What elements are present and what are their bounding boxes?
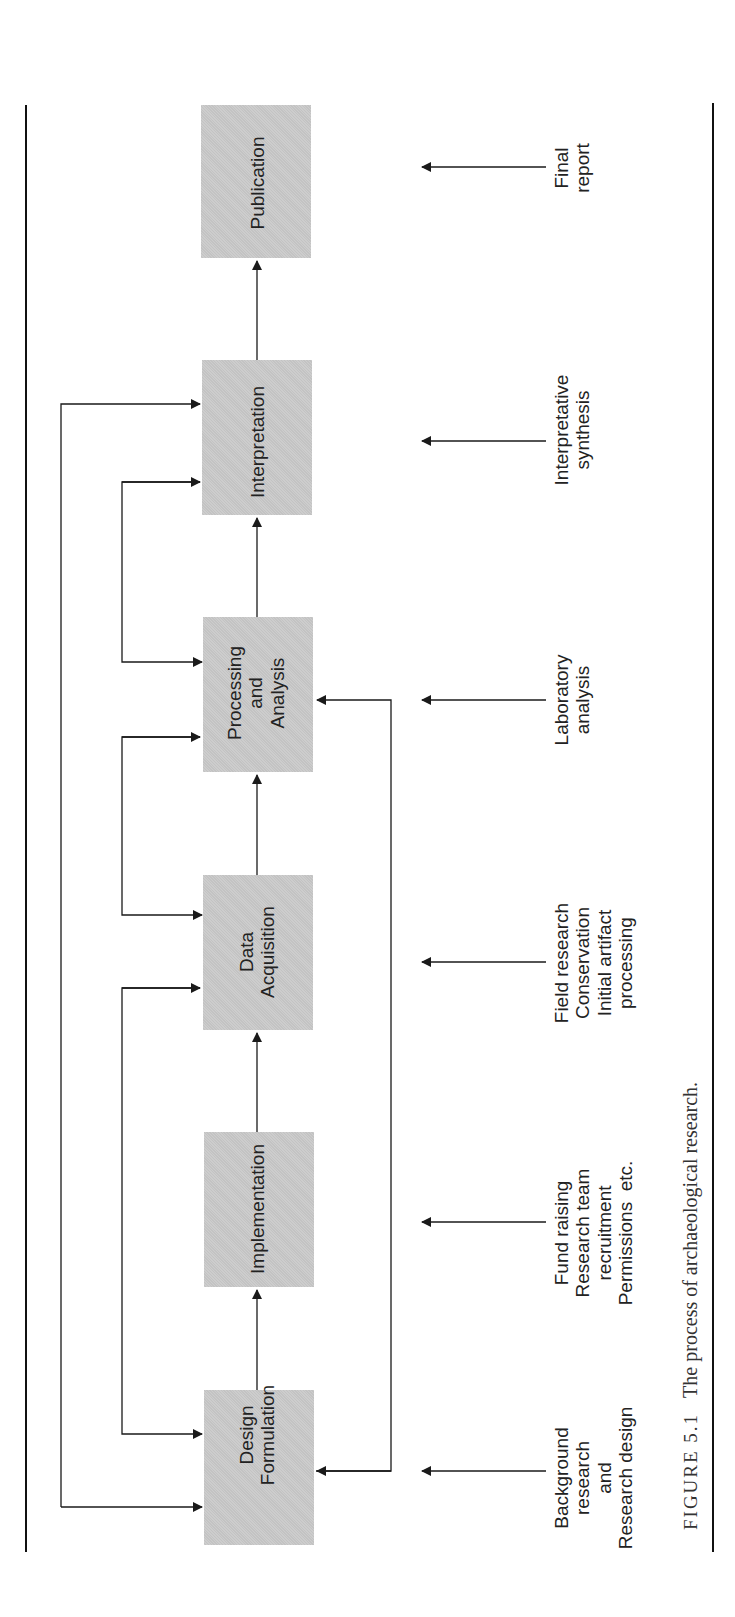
note-design: Background research and Research design	[551, 1378, 637, 1578]
figure-canvas: Design Formulation Implementation Data A…	[0, 0, 735, 1617]
note-implementation: Fund raising Research team recruitment P…	[551, 1138, 637, 1328]
stage-label-processing: Processing and Analysis	[224, 623, 288, 763]
note-data: Field research Conservation Initial arti…	[551, 868, 637, 1058]
figure-number: FIGURE 5.1	[680, 1413, 701, 1530]
figure-caption: FIGURE 5.1 The process of archaeological…	[657, 990, 724, 1550]
stage-label-data: Data Acquisition	[236, 887, 279, 1017]
note-processing: Laboratory analysis	[551, 630, 594, 770]
stage-label-implementation: Implementation	[247, 1135, 268, 1283]
stage-label-interpretation: Interpretation	[247, 368, 268, 516]
diagram-connectors	[0, 0, 735, 1617]
note-publication: Final report	[551, 123, 594, 213]
figure-caption-text: The process of archaeological research.	[679, 1082, 701, 1398]
note-interpretation: Interpretative synthesis	[551, 355, 594, 505]
loop-outer-top	[61, 404, 200, 1507]
stage-label-design: Design Formulation	[236, 1365, 279, 1505]
stage-label-publication: Publication	[247, 108, 268, 258]
